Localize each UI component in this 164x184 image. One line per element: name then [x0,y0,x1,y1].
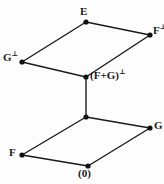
edge-zero-g [88,128,150,166]
edges-group [22,22,150,166]
node-fgperp [83,74,88,79]
edge-f-fgmid [22,117,86,155]
edge-gperp-e [22,22,86,62]
node-label-gperp: G⊥ [3,52,18,63]
node-fperp [147,32,152,37]
node-label-fgperp: (F+G)⊥ [90,70,126,81]
edge-fgmid-g [86,117,150,128]
perp-superscript-icon: ⊥ [12,50,19,58]
node-gperp [19,59,24,64]
node-label-zero: (0) [78,168,91,179]
node-label-fperp: F⊥ [153,25,164,36]
node-fgmid [83,114,88,119]
perp-superscript-icon: ⊥ [160,23,164,31]
edge-gperp-fgperp [22,62,86,77]
node-g [147,125,152,130]
node-label-f: F [9,147,16,158]
node-f [19,152,24,157]
lattice-graph-svg [0,0,164,184]
node-label-e: E [80,6,87,17]
edge-e-fperp [86,22,150,35]
lattice-diagram: EF⊥G⊥(F+G)⊥GF(0) [0,0,164,184]
node-label-g: G [154,120,163,131]
perp-superscript-icon: ⊥ [119,68,126,76]
edge-f-zero [22,155,88,166]
node-e [83,19,88,24]
